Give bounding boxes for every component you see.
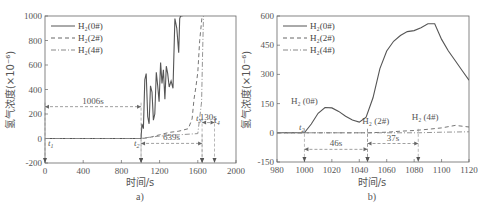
point-label: H₂ (2#) (362, 116, 389, 126)
y-axis-label-a: 氢气浓度(×10⁻⁶) (4, 51, 16, 129)
y-tick-label: 400 (29, 85, 43, 95)
y-tick-label: 600 (29, 60, 43, 70)
chart-b: -1500150300450600 9801000102010401060108… (240, 11, 478, 203)
series-a (45, 16, 204, 139)
x-tick-label: 1040 (350, 165, 369, 175)
series-line (45, 16, 202, 139)
y-axis-label-b: 氢气浓度(×10⁻⁶) (240, 51, 252, 129)
x-axis-label-b: 时间/s (358, 176, 387, 188)
legend-entry: H₂(0#) (310, 21, 335, 31)
x-tick-label: 2000 (227, 166, 246, 176)
x-tick-label: 1080 (405, 165, 424, 175)
x-tick-label: 1120 (460, 165, 478, 175)
caption-b: b) (368, 191, 376, 203)
x-tick-label: 1200 (151, 166, 170, 176)
annotations-b: H₂ (0#)H₂ (2#)H₂ (4#)t246s37s (291, 96, 439, 162)
figure: -20002004006008001000 040080012001600200… (0, 0, 486, 210)
y-tick-label: 1000 (24, 11, 43, 21)
x-tick-label: 0 (43, 166, 48, 176)
y-tick-label: 0 (270, 128, 275, 138)
x-ticks-a: 0400800120016002000 (43, 160, 246, 176)
x-tick-label: 1060 (378, 165, 397, 175)
y-tick-label: 450 (261, 40, 275, 50)
duration-label: 1006s (82, 96, 104, 106)
chart-a: -20002004006008001000 040080012001600200… (4, 11, 246, 203)
duration-label: 639s (163, 132, 181, 142)
duration-label: 37s (387, 133, 400, 143)
x-tick-label: 980 (270, 165, 284, 175)
y-tick-label: 800 (29, 36, 43, 46)
point-label: t2 (299, 122, 305, 133)
y-tick-label: 200 (29, 109, 43, 119)
duration-label: 46s (330, 138, 343, 148)
legend-b: H₂(0#)H₂(2#)H₂(4#) (283, 21, 335, 55)
point-label: t2 (134, 138, 140, 149)
point-label: t1 (48, 138, 54, 149)
x-tick-label: 400 (76, 166, 90, 176)
point-label: H₂ (0#) (291, 96, 318, 106)
x-tick-label: 1600 (189, 166, 208, 176)
caption-a: a) (136, 191, 144, 203)
x-tick-label: 1000 (295, 165, 314, 175)
x-tick-label: 800 (115, 166, 129, 176)
x-axis-label-a: 时间/s (126, 176, 155, 188)
series-line (45, 16, 183, 139)
legend-entry: H₂(2#) (310, 33, 335, 43)
point-label: t4 (214, 115, 220, 126)
point-label: H₂ (4#) (412, 112, 439, 122)
legend-entry: H₂(4#) (310, 45, 335, 55)
x-ticks-b: 9801000102010401060108011001120 (270, 159, 478, 175)
legend-entry: H₂(4#) (78, 45, 103, 55)
legend-entry: H₂(0#) (78, 21, 103, 31)
legend-a: H₂(0#)H₂(2#)H₂(4#) (51, 21, 103, 55)
x-tick-label: 1020 (323, 165, 342, 175)
y-tick-label: 600 (261, 11, 275, 21)
legend-entry: H₂(2#) (78, 33, 103, 43)
y-tick-label: 0 (38, 134, 43, 144)
y-tick-label: 150 (261, 99, 275, 109)
y-ticks-a: -20002004006008001000 (24, 11, 48, 168)
x-tick-label: 1100 (433, 165, 451, 175)
y-tick-label: 300 (261, 69, 275, 79)
y-tick-label: -200 (26, 158, 43, 168)
